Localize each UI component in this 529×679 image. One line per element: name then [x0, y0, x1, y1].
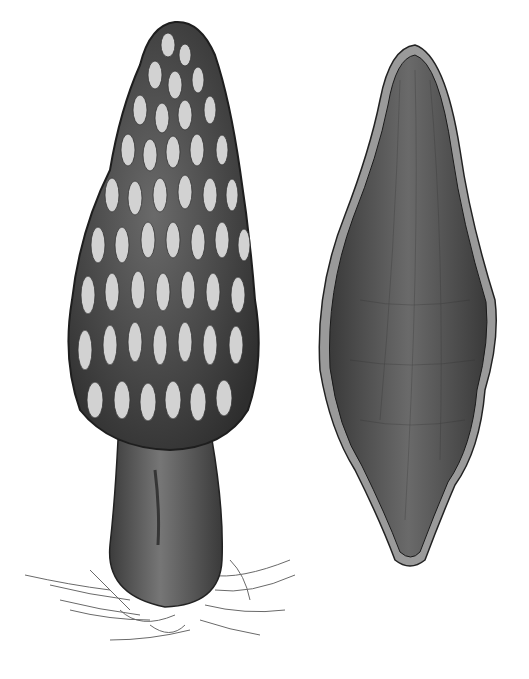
mushroom-stem [110, 440, 223, 607]
morel-illustration [0, 0, 529, 679]
cross-section-interior [329, 55, 486, 557]
